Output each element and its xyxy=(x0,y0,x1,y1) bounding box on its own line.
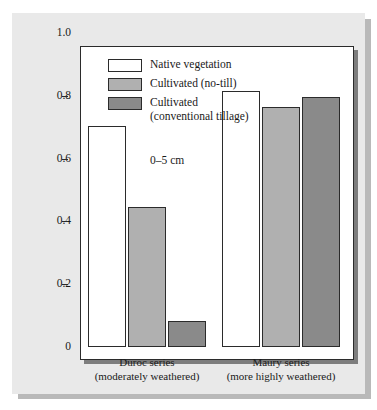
panel-drop-shadow-right xyxy=(365,19,371,399)
plot-frame-shadow-right xyxy=(354,50,358,364)
bar xyxy=(88,126,126,347)
x-axis-group-label: Maury series(more highly weathered) xyxy=(191,355,371,383)
bar xyxy=(222,91,260,347)
bar xyxy=(302,97,340,347)
x-label-line-primary: Maury series xyxy=(191,355,371,369)
bar xyxy=(262,107,300,347)
bar xyxy=(168,321,206,347)
legend-swatch xyxy=(108,97,142,110)
figure-panel: Normalized stability index 1.00.80.60.40… xyxy=(12,13,365,394)
legend-label: Cultivated xyxy=(150,95,198,110)
bar xyxy=(128,207,166,347)
legend-item: Cultivated (no-till) xyxy=(108,76,318,93)
depth-annotation: 0–5 cm xyxy=(150,154,184,166)
y-tick-label: 1.0 xyxy=(37,27,71,39)
legend-label: Cultivated (no-till) xyxy=(150,76,237,91)
y-tick-label: 0 xyxy=(37,341,71,353)
legend-swatch xyxy=(108,78,142,91)
legend-item: Cultivated(conventional tillage) xyxy=(108,95,318,127)
chart-legend: Native vegetationCultivated (no-till)Cul… xyxy=(108,57,318,129)
legend-swatch xyxy=(108,59,142,72)
x-label-line-secondary: (more highly weathered) xyxy=(191,369,371,383)
legend-item: Native vegetation xyxy=(108,57,318,74)
legend-label-continued: (conventional tillage) xyxy=(150,109,249,124)
legend-label: Native vegetation xyxy=(150,57,231,72)
